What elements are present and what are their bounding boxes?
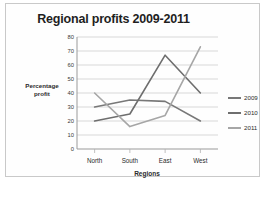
- y-tick-label: 70: [68, 48, 74, 54]
- y-tick-label: 60: [68, 62, 74, 68]
- x-tick-label-west: West: [193, 157, 207, 164]
- y-axis-title: Percentage profit: [14, 82, 70, 98]
- y-tick-label: 0: [71, 146, 74, 152]
- y-tick-label: 50: [68, 76, 74, 82]
- chart-title: Regional profits 2009-2011: [6, 12, 221, 26]
- series-line-2011: [95, 47, 201, 127]
- plot-area: 80706050403020100 NorthSouthEastWest: [77, 37, 218, 149]
- y-tick-label: 80: [68, 34, 74, 40]
- x-axis-title: Regions: [72, 170, 222, 177]
- legend-label-2009: 2009: [244, 94, 258, 101]
- y-tick-label: 40: [68, 90, 74, 96]
- y-tick-label: 30: [68, 104, 74, 110]
- chart-svg: [77, 37, 218, 149]
- legend-item-2010[interactable]: 2010: [228, 105, 267, 120]
- y-tick-label: 20: [68, 118, 74, 124]
- x-tick-label-east: East: [159, 157, 172, 164]
- chart-frame: Regional profits 2009-2011 Percentage pr…: [5, 3, 260, 177]
- y-axis-title-line2: profit: [14, 90, 70, 98]
- legend-swatch-2010: [228, 112, 241, 114]
- x-tick-label-north: North: [87, 157, 102, 164]
- legend-item-2011[interactable]: 2011: [228, 120, 267, 135]
- legend-item-2009[interactable]: 2009: [228, 90, 267, 105]
- legend-label-2011: 2011: [244, 124, 257, 131]
- y-tick-label: 10: [68, 132, 74, 138]
- x-tick-label-south: South: [122, 157, 138, 164]
- chart-legend: 200920102011: [228, 90, 267, 135]
- legend-swatch-2009: [228, 97, 241, 99]
- legend-swatch-2011: [228, 127, 241, 129]
- legend-label-2010: 2010: [244, 109, 258, 116]
- y-axis-title-line1: Percentage: [14, 82, 70, 90]
